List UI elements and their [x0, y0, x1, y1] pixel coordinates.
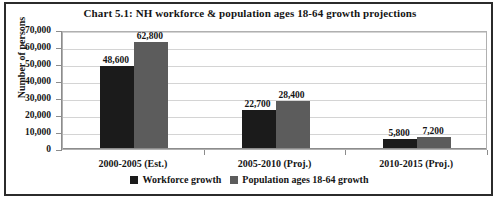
bar-value-label: 48,600 [103, 55, 129, 65]
y-axis-tick-label: 30,000 [0, 93, 51, 103]
bar-value-label: 28,400 [278, 90, 304, 100]
x-axis-tick [345, 150, 346, 155]
legend-item[interactable]: Population ages 18-64 growth [230, 174, 368, 185]
x-axis-category-label: 2005-2010 (Proj.) [238, 158, 312, 169]
gridline [63, 49, 486, 50]
bar [242, 110, 276, 149]
y-axis-tick-label: 20,000 [0, 110, 51, 120]
x-axis-tick [487, 150, 488, 155]
y-axis-tick-label: 70,000 [0, 25, 51, 35]
bar-value-label: 5,800 [388, 128, 409, 138]
x-axis-category-label: 2010-2015 (Proj.) [379, 158, 453, 169]
legend-swatch-icon [230, 176, 238, 184]
y-axis-tick-label: 50,000 [0, 59, 51, 69]
legend-label: Workforce growth [142, 174, 221, 185]
chart-title: Chart 5.1: NH workforce & population age… [40, 7, 460, 19]
y-axis-tick-label: 60,000 [0, 42, 51, 52]
bar-value-label: 7,200 [422, 126, 443, 136]
legend-label: Population ages 18-64 growth [242, 174, 368, 185]
chart-container: Chart 5.1: NH workforce & population age… [0, 0, 499, 199]
bar [276, 101, 310, 149]
y-axis-tick-label: 0 [0, 144, 51, 154]
legend-item[interactable]: Workforce growth [130, 174, 221, 185]
x-axis-tick [204, 150, 205, 155]
chart-legend: Workforce growthPopulation ages 18-64 gr… [0, 174, 499, 185]
legend-swatch-icon [130, 176, 138, 184]
x-axis-baseline [63, 148, 486, 149]
y-axis-tick-label: 10,000 [0, 127, 51, 137]
x-axis-category-label: 2000-2005 (Est.) [98, 158, 167, 169]
bar [134, 42, 168, 149]
y-axis-tick-label: 40,000 [0, 76, 51, 86]
gridline [63, 32, 486, 33]
bar-value-label: 62,800 [137, 31, 163, 41]
bar [100, 66, 134, 149]
bar-value-label: 22,700 [244, 99, 270, 109]
